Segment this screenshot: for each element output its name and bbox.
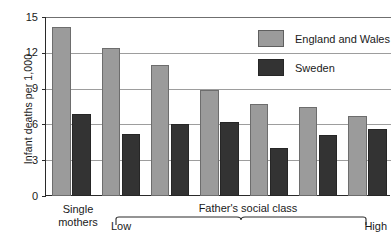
infant-mortality-bar-chart: Infant deaths per 1,000 03691215 England… xyxy=(0,0,392,249)
bar-england-and-wales-group-3 xyxy=(151,65,170,196)
bar-england-and-wales-group-4 xyxy=(200,90,219,196)
x-label-single-mothers-line2: mothers xyxy=(47,216,109,229)
bar-sweden-group-4 xyxy=(220,122,239,196)
x-label-high: High xyxy=(313,220,387,233)
legend-swatch-england-and-wales xyxy=(258,30,284,47)
y-tick-0 xyxy=(42,196,46,197)
legend-item-england-and-wales: England and Wales xyxy=(258,24,390,53)
bar-england-and-wales-group-1 xyxy=(52,27,71,196)
bar-sweden-group-6 xyxy=(319,135,338,196)
x-label-single-mothers: Single mothers xyxy=(47,203,109,229)
y-tick-label-6: 6 xyxy=(10,119,38,130)
bar-sweden-group-1 xyxy=(72,114,91,196)
bar-sweden-group-5 xyxy=(270,148,289,196)
x-axis-labels: Single mothers Father's social class Low… xyxy=(45,198,390,249)
x-label-fathers-social-class: Father's social class xyxy=(123,202,373,215)
legend-label-england-and-wales: England and Wales xyxy=(295,33,390,45)
legend: England and Wales Sweden xyxy=(258,24,390,82)
y-tick-label-0: 0 xyxy=(10,191,38,202)
legend-item-sweden: Sweden xyxy=(258,53,390,82)
y-tick-label-12: 12 xyxy=(10,47,38,58)
x-label-single-mothers-line1: Single xyxy=(47,203,109,216)
bar-england-and-wales-group-7 xyxy=(348,116,367,196)
legend-label-sweden: Sweden xyxy=(295,62,335,74)
bar-sweden-group-3 xyxy=(171,124,190,196)
legend-swatch-sweden xyxy=(258,59,284,76)
y-tick-label-15: 15 xyxy=(10,12,38,23)
bar-england-and-wales-group-2 xyxy=(102,48,121,196)
y-tick-label-9: 9 xyxy=(10,83,38,94)
bar-sweden-group-7 xyxy=(368,129,387,196)
x-label-low: Low xyxy=(111,220,157,233)
bar-england-and-wales-group-5 xyxy=(250,104,269,196)
bar-england-and-wales-group-6 xyxy=(299,107,318,197)
bar-sweden-group-2 xyxy=(122,134,141,196)
y-tick-label-3: 3 xyxy=(10,155,38,166)
